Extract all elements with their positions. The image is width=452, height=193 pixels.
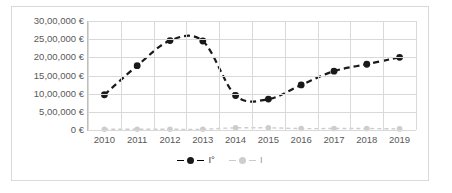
vertical-gridline [186, 21, 187, 130]
vertical-gridline [88, 21, 89, 130]
y-tick-label: 20,00,000 € [12, 52, 84, 62]
legend-dash-icon [229, 160, 236, 161]
chart-container: 0 €5,00,000 €10,00,000 €15,00,000 €20,00… [11, 6, 429, 181]
data-point-marker[interactable] [363, 61, 370, 68]
legend-label-series-2: I [260, 155, 263, 165]
y-tick-label: 0 € [12, 125, 84, 135]
y-tick-label: 10,00,000 € [12, 89, 84, 99]
legend-entry-series-1[interactable]: I° [177, 155, 214, 165]
vertical-gridline [154, 21, 155, 130]
legend-dash-icon [249, 160, 256, 161]
legend-marker-icon [187, 157, 194, 164]
vertical-gridline [416, 21, 417, 130]
vertical-gridline [219, 21, 220, 130]
data-point-marker[interactable] [101, 91, 108, 98]
data-point-marker[interactable] [298, 82, 305, 89]
data-point-marker[interactable] [331, 68, 338, 75]
legend-entry-series-2[interactable]: I [229, 155, 263, 165]
x-tick-label: 2019 [380, 133, 420, 147]
vertical-gridline [285, 21, 286, 130]
y-tick-label: 5,00,000 € [12, 107, 84, 117]
legend-dash-icon [197, 160, 204, 161]
vertical-gridline [383, 21, 384, 130]
plot-area [88, 21, 416, 130]
horizontal-gridline [88, 130, 416, 131]
legend-dash-icon [177, 160, 184, 161]
y-tick-label: 30,00,000 € [12, 16, 84, 26]
legend-label-series-1: I° [208, 155, 214, 165]
vertical-gridline [318, 21, 319, 130]
y-tick-label: 15,00,000 € [12, 71, 84, 81]
y-tick-label: 25,00,000 € [12, 34, 84, 44]
vertical-gridline [121, 21, 122, 130]
data-point-marker[interactable] [134, 62, 141, 69]
data-point-marker[interactable] [265, 96, 272, 103]
vertical-gridline [350, 21, 351, 130]
vertical-gridline [252, 21, 253, 130]
legend-marker-icon [239, 157, 246, 164]
chart-legend: I° I [12, 155, 428, 165]
x-axis-tick-labels: 2010201120122013201420152016201720182019 [88, 133, 416, 149]
